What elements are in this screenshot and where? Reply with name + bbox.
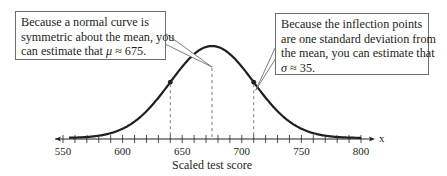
mean-estimate: ≈ 675. (115, 44, 146, 58)
x-axis-tick-labels: 550600650700750800 (55, 145, 370, 157)
x-tick-label-600: 600 (114, 145, 131, 157)
sd-callout-pointer (256, 46, 276, 90)
mean-callout: Because a normal curve is symmetric abou… (15, 11, 166, 60)
x-tick-label-650: 650 (174, 145, 191, 157)
mean-callout-line-3: can estimate that μ ≈ 675. (21, 44, 161, 59)
sigma-symbol: σ (281, 61, 287, 75)
sd-callout-line-1: Because the inflection points (281, 17, 424, 32)
x-axis (55, 137, 375, 142)
sd-callout-line-2: are one standard deviation from (281, 32, 424, 47)
reference-lines (170, 68, 253, 138)
callout-pointers (165, 33, 276, 90)
x-axis-variable-label: x (379, 132, 385, 144)
inflection-left-point (168, 80, 173, 85)
sd-callout-line-4: σ ≈ 35. (281, 61, 424, 76)
x-tick-label-800: 800 (353, 145, 370, 157)
x-axis-title: Scaled test score (172, 158, 252, 172)
sd-callout: Because the inflection points are one st… (275, 13, 429, 75)
sd-estimate: ≈ 35. (290, 61, 315, 75)
x-tick-label-700: 700 (234, 145, 251, 157)
mean-callout-line-2: symmetric about the mean, you (21, 30, 161, 45)
x-tick-label-750: 750 (293, 145, 310, 157)
mean-callout-text: can estimate that (21, 44, 106, 58)
x-tick-label-550: 550 (55, 145, 72, 157)
sd-callout-line-3: the mean, you can estimate that (281, 46, 424, 61)
inflection-right-point (251, 80, 256, 85)
mu-symbol: μ (106, 44, 112, 58)
mean-callout-line-1: Because a normal curve is (21, 15, 161, 30)
